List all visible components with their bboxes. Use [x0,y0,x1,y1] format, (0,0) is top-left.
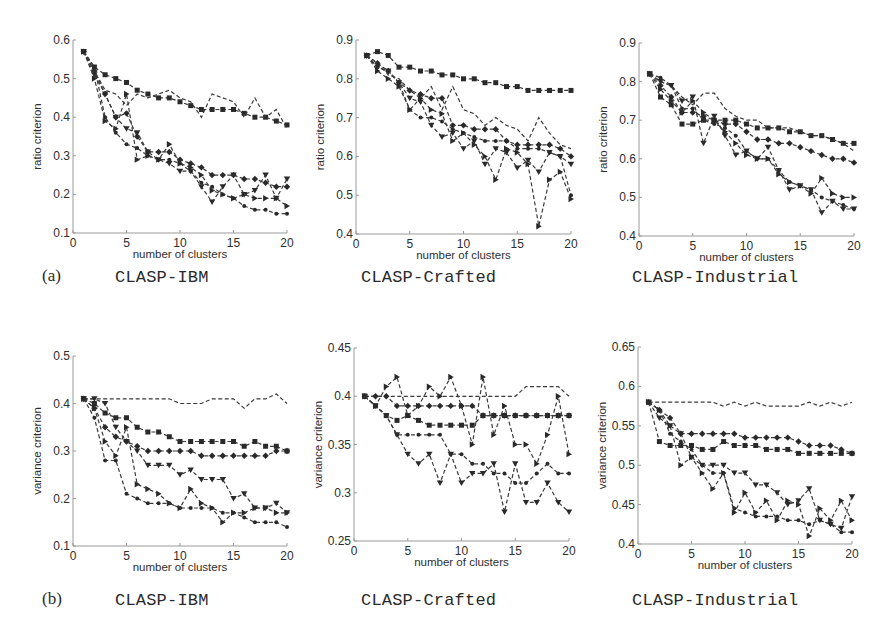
triangle-down-marker [700,141,706,147]
square-marker [502,413,507,418]
series-series-3 [364,52,575,159]
dot-marker [839,530,843,534]
triangle-right-marker [830,190,836,196]
dot-marker [221,192,225,196]
square-marker [700,447,705,452]
triangle-right-marker [145,486,151,492]
square-marker [459,423,464,428]
dot-marker [732,507,736,511]
series-line [650,74,854,209]
square-marker [690,122,695,127]
dot-marker [481,462,485,466]
square-marker [828,451,833,456]
y-tick-label: 0.7 [619,113,636,127]
dot-marker [264,520,268,524]
square-marker [145,92,150,97]
series-line [650,74,854,213]
diamond-marker [230,453,236,459]
y-tick-label: 0.1 [53,226,70,240]
diamond-marker [827,442,833,448]
dot-marker [264,208,268,212]
dot-marker [157,158,161,162]
diamond-marker [763,434,769,440]
square-marker [135,425,140,430]
square-marker [438,423,443,428]
triangle-right-marker [524,441,530,447]
x-tick-label: 0 [351,544,358,558]
triangle-right-marker [252,195,258,201]
series-series-1 [364,49,573,93]
x-tick-label: 20 [845,547,859,561]
square-marker [156,430,161,435]
square-marker [231,107,236,112]
diamond-marker [806,442,812,448]
series-series-1 [365,387,569,397]
square-marker [504,84,509,89]
square-marker [481,413,486,418]
square-marker [167,95,172,100]
square-marker [743,443,748,448]
x-axis-label: number of clusters [133,248,228,260]
triangle-down-marker [840,206,846,212]
dot-marker [438,433,442,437]
square-marker [124,80,129,85]
diamond-marker [785,434,791,440]
dot-marker [419,116,423,120]
square-marker [461,76,466,81]
series-line [365,396,569,483]
dot-marker [146,501,150,505]
diamond-marker [273,448,279,454]
series-line [84,394,287,408]
dot-marker [472,135,476,139]
series-line [84,52,287,125]
series-series-3 [362,394,571,428]
triangle-right-marker [743,490,749,496]
y-tick-label: 0.35 [328,438,352,452]
y-tick-label: 0.65 [612,340,636,354]
dot-marker [690,447,694,451]
y-tick-label: 0.25 [328,534,352,548]
square-marker [450,72,455,77]
dot-marker [408,108,412,112]
triangle-right-marker [850,517,856,523]
triangle-right-marker [438,393,444,399]
dot-marker [427,433,431,437]
y-tick-label: 0.5 [53,72,70,86]
square-marker [113,415,118,420]
square-marker [188,103,193,108]
square-marker [526,88,531,93]
triangle-right-marker [733,140,739,146]
x-tick-label: 0 [353,237,360,251]
dot-marker [494,139,498,143]
triangle-down-marker [501,510,507,516]
square-marker [721,439,726,444]
dot-marker [852,207,856,211]
dot-marker [125,492,129,496]
dot-marker [199,506,203,510]
square-marker [680,122,685,127]
dot-marker [397,81,401,85]
x-tick-label: 0 [70,236,77,250]
dot-marker [745,149,749,153]
y-tick-label: 0.6 [618,379,635,393]
square-marker [440,72,445,77]
diamond-marker [198,453,204,459]
diamond-marker [220,172,226,178]
triangle-down-marker [134,449,140,455]
dot-marker [820,195,824,199]
diamond-marker [776,140,782,146]
diamond-marker [241,176,247,182]
y-tick-label: 0.4 [53,397,70,411]
diamond-marker [134,443,140,449]
y-tick-label: 0.45 [612,498,636,512]
dot-marker [242,516,246,520]
dot-marker [515,147,519,151]
diamond-marker [241,453,247,459]
dot-marker [462,131,466,135]
square-marker [429,69,434,74]
y-axis-label: ratio criterion [31,103,43,169]
dot-marker [135,146,139,150]
dot-marker [712,122,716,126]
square-marker [274,119,279,124]
dot-marker [189,169,193,173]
